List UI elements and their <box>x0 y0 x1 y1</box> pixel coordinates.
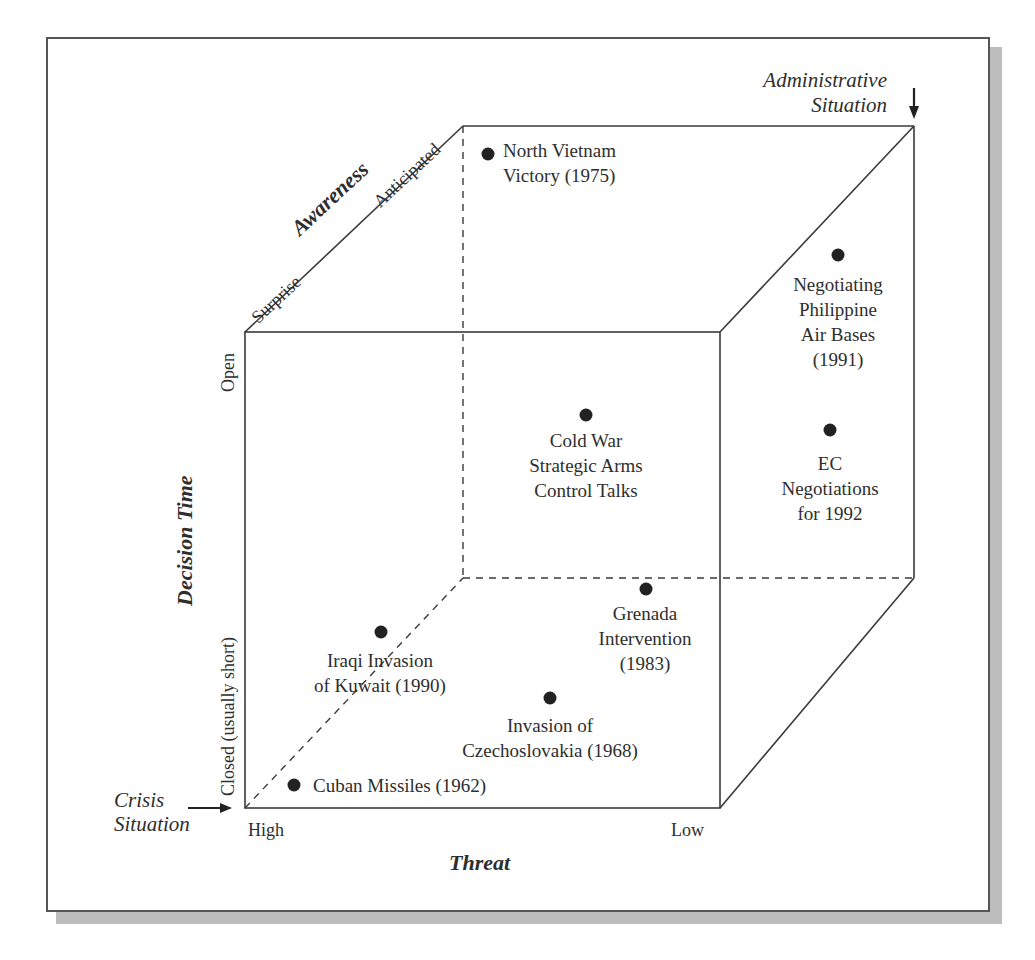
right-arrow-icon <box>188 803 232 813</box>
label-cuban: Cuban Missiles (1962) <box>313 773 486 798</box>
label-coldwar: Cold War Strategic Arms Control Talks <box>506 428 666 503</box>
label-northvietnam: North Vietnam Victory (1975) <box>503 138 616 188</box>
threat-high-label: High <box>248 818 284 843</box>
point-northvietnam <box>482 148 495 161</box>
administrative-label-line1: Administrative <box>763 68 887 92</box>
point-coldwar <box>580 409 593 422</box>
point-czech <box>544 692 557 705</box>
administrative-label-line2: Situation <box>811 93 887 117</box>
point-grenada <box>640 583 653 596</box>
bottom-right-connector <box>720 578 914 808</box>
label-czech: Invasion of Czechoslovakia (1968) <box>460 713 640 763</box>
label-philippine: Negotiating Philippine Air Bases (1991) <box>773 272 903 372</box>
threat-axis-title: Threat <box>449 850 510 875</box>
crisis-label-line2: Situation <box>114 812 190 836</box>
label-iraqi: Iraqi Invasion of Kuwait (1990) <box>290 648 470 698</box>
point-iraqi <box>375 626 388 639</box>
point-cuban <box>288 779 301 792</box>
label-ec: EC Negotiations for 1992 <box>765 451 895 526</box>
label-grenada: Grenada Intervention (1983) <box>580 601 710 676</box>
point-philippine <box>832 249 845 262</box>
decision-time-axis-title: Decision Time <box>172 475 197 606</box>
crisis-label-line1: Crisis <box>114 788 164 812</box>
decision-time-high-label: Open <box>216 353 241 392</box>
threat-low-label: Low <box>671 818 704 843</box>
down-arrow-icon <box>909 88 919 119</box>
decision-time-low-label: Closed (usually short) <box>216 637 241 796</box>
point-ec <box>824 424 837 437</box>
